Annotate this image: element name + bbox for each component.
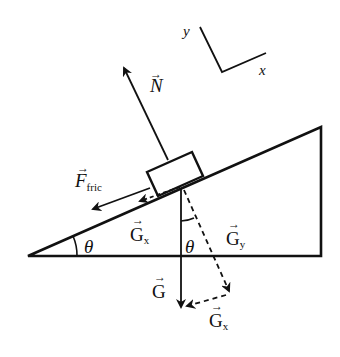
gy-label: Gy [226,228,246,250]
gravity-x-component-bottom: Gx → [187,295,229,332]
block [147,152,203,196]
gravity-label: G [152,281,166,302]
y-axis-label: y [181,23,190,39]
vector-arrow-glyph: → [154,270,166,284]
vector-arrow-glyph: → [211,299,223,313]
incline-plane [28,127,321,256]
coordinate-axes: y x [181,23,266,78]
vector-arrow-glyph: → [228,217,240,231]
gx-label: Gx [130,224,150,246]
gravity-x-component-incline: Gx → [130,187,180,246]
normal-force-vector: N → [124,67,168,160]
gx-bottom-label: Gx [209,310,229,332]
angle-incline: θ [73,236,93,257]
friction-force-vector: Ffric → [74,161,150,209]
vector-arrow-glyph: → [150,67,162,81]
incline-diagram: y x N → Ffric → Gx → G → Gy → Gx → [0,0,340,357]
vector-arrow-glyph: → [77,161,89,175]
theta-gravity-label: θ [185,236,194,257]
vector-arrow-glyph: → [132,213,144,227]
gravity-vector: G → [152,188,181,307]
theta-incline-label: θ [84,236,93,257]
angle-gravity: θ [181,218,194,257]
x-axis-label: x [258,62,266,78]
